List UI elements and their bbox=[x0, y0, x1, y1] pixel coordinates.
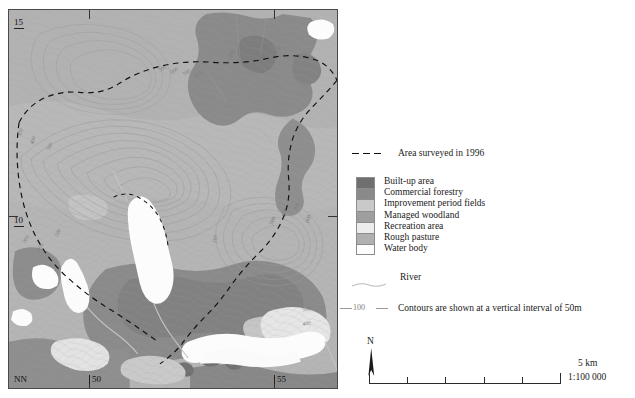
swatch-water-body bbox=[356, 244, 375, 255]
swatch-improvement-period-fields bbox=[356, 199, 375, 210]
river-line-icon bbox=[352, 274, 386, 280]
swatch-built-up-area bbox=[356, 177, 375, 188]
scale-ratio-label: 1:100 000 bbox=[568, 372, 606, 382]
grid-label-easting-55: 55 bbox=[274, 375, 286, 384]
scale-bar bbox=[369, 372, 561, 384]
legend-label-built-up-area: Built-up area bbox=[384, 176, 485, 187]
dashed-line-icon bbox=[352, 153, 384, 154]
scale-tick bbox=[560, 373, 561, 384]
grid-square-reference: NN bbox=[14, 375, 27, 384]
scale-tick bbox=[522, 377, 523, 384]
legend-label-rough-pasture: Rough pasture bbox=[384, 232, 485, 243]
map-drawing: 300 400 500 300 400 500 500 600 700 800 … bbox=[9, 10, 337, 388]
grid-tick-right bbox=[328, 216, 337, 217]
scale-bar-axis bbox=[369, 383, 561, 384]
grid-tick-top bbox=[89, 10, 90, 19]
legend-label-area-surveyed: Area surveyed in 1996 bbox=[398, 148, 484, 158]
swatch-commercial-forestry bbox=[356, 188, 375, 199]
map-panel: 300 400 500 300 400 500 500 600 700 800 … bbox=[8, 9, 338, 389]
svg-text:500: 500 bbox=[302, 305, 311, 312]
grid-label-easting-50: 50 bbox=[89, 375, 101, 384]
map-legend: Area surveyed in 1996 bbox=[348, 146, 633, 160]
scale-tick bbox=[484, 377, 485, 384]
legend-item-river: River bbox=[348, 272, 421, 282]
swatch-managed-woodland bbox=[356, 211, 375, 222]
svg-text:200: 200 bbox=[211, 234, 218, 243]
scale-tick bbox=[407, 377, 408, 384]
legend-label-recreation-area: Recreation area bbox=[384, 221, 485, 232]
svg-text:400: 400 bbox=[302, 320, 311, 327]
contour-line-icon: 100 bbox=[340, 303, 388, 313]
scale-tick bbox=[369, 373, 370, 384]
grid-label-northing-15: 15 bbox=[14, 18, 24, 29]
grid-tick-top bbox=[274, 10, 275, 19]
contour-sample-value: 100 bbox=[353, 303, 365, 313]
legend-swatch-column bbox=[356, 177, 375, 255]
legend-item-contours: 100 Contours are shown at a vertical int… bbox=[340, 303, 582, 313]
legend-label-managed-woodland: Managed woodland bbox=[384, 210, 485, 221]
scale-bar-label: 5 km bbox=[578, 358, 597, 368]
legend-item-area-surveyed: Area surveyed in 1996 bbox=[348, 146, 633, 160]
legend-label-column: Built-up area Commercial forestry Improv… bbox=[384, 176, 485, 254]
legend-label-contours: Contours are shown at a vertical interva… bbox=[398, 303, 582, 313]
grid-label-northing-10: 10 bbox=[14, 216, 24, 227]
swatch-recreation-area bbox=[356, 222, 375, 233]
legend-label-commercial-forestry: Commercial forestry bbox=[384, 187, 485, 198]
legend-label-improvement-period-fields: Improvement period fields bbox=[384, 198, 485, 209]
legend-label-river: River bbox=[400, 272, 421, 282]
scale-tick bbox=[445, 377, 446, 384]
legend-label-water-body: Water body bbox=[384, 243, 485, 254]
swatch-rough-pasture bbox=[356, 233, 375, 244]
north-arrow-label: N bbox=[367, 336, 374, 346]
